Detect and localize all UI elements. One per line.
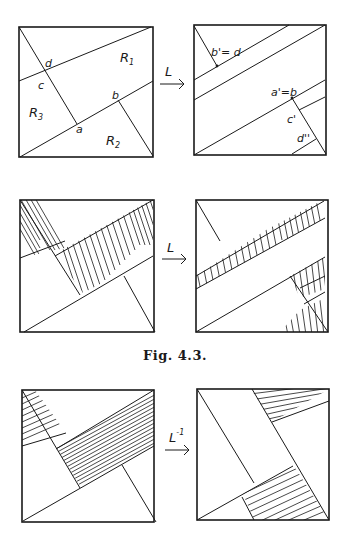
hatched-region — [50, 392, 160, 500]
cut-line — [196, 200, 220, 241]
cut-line — [122, 465, 156, 522]
cut-line — [290, 276, 328, 332]
row3-left-panel — [22, 390, 160, 522]
strip-line — [194, 25, 289, 80]
map-label: L — [165, 64, 172, 79]
point-label-b: b — [112, 89, 119, 102]
strip-line — [299, 97, 325, 110]
map-label: L-1 — [169, 428, 184, 445]
point-label-a-prime: a'=b — [271, 86, 297, 99]
map-arrow-L: L — [160, 64, 184, 89]
map-arrow-L: L — [162, 240, 186, 264]
point-label-c-prime: c' — [287, 113, 296, 126]
strip-line — [196, 257, 325, 332]
cut-line — [124, 276, 155, 332]
map-arrow-L-inverse: L-1 — [165, 428, 189, 455]
strip-line — [194, 25, 325, 100]
strip-line — [300, 276, 325, 288]
cut-line — [22, 390, 80, 488]
strip-line — [22, 433, 66, 446]
row2-left-panel — [20, 185, 165, 332]
figure-caption: Fig. 4.3. — [0, 348, 350, 363]
hatched-region — [240, 453, 330, 526]
strip-line — [304, 292, 325, 304]
strip-line — [196, 218, 325, 289]
cut-line — [242, 497, 254, 520]
hatched-region — [283, 292, 324, 335]
point-label-d: d — [45, 57, 53, 70]
strip-line — [20, 241, 65, 258]
point-label-d-dprime: d'' — [297, 132, 310, 145]
row1-right-panel: b'= d a'=b c' d'' — [194, 25, 326, 155]
map-label: L — [167, 240, 174, 255]
figure-canvas: R1 R2 R3 a b c d L b'= d a'=b c' d'' — [0, 0, 350, 542]
cut-line — [292, 98, 326, 154]
cut-line — [19, 27, 77, 124]
strip-line — [197, 466, 293, 520]
region-label-r2: R2 — [106, 133, 120, 150]
region-label-r3: R3 — [29, 105, 43, 122]
cut-line — [118, 100, 153, 156]
strip-line — [55, 200, 153, 256]
point-label-a: a — [76, 123, 83, 136]
hatched-region — [22, 390, 70, 440]
point-label-c: c — [38, 79, 44, 92]
strip-line — [19, 27, 151, 81]
strip-line — [23, 446, 154, 521]
row1-left-panel: R1 R2 R3 a b c d — [19, 27, 153, 157]
hatched-region — [190, 190, 324, 305]
point-label-b-prime: b'= d — [211, 46, 242, 59]
strip-line — [196, 201, 324, 276]
cut-line — [20, 200, 80, 295]
point-dot — [216, 65, 219, 68]
cut-line — [197, 389, 254, 483]
row3-right-panel — [197, 384, 330, 526]
row2-right-panel — [190, 190, 328, 335]
region-label-r1: R1 — [120, 50, 134, 67]
